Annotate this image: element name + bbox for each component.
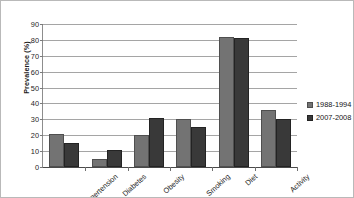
- x-axis-category-label: Smoking: [205, 172, 232, 198]
- x-axis-category-label: Diet: [243, 172, 259, 187]
- legend-label: 1988-1994: [316, 100, 351, 109]
- bar-group: [49, 24, 79, 167]
- y-axis-tick-label: 90: [31, 20, 39, 29]
- x-axis-tick-mark: [85, 167, 86, 171]
- y-axis-tick-label: 30: [31, 115, 39, 124]
- y-axis-tick-label: 0: [35, 163, 39, 172]
- x-axis-tick-mark: [255, 167, 256, 171]
- bar: [134, 135, 149, 167]
- y-axis-tick-label: 80: [31, 35, 39, 44]
- legend-swatch-icon: [307, 115, 313, 121]
- bar-group: [92, 24, 122, 167]
- x-axis-category-label: Obesity: [161, 172, 186, 195]
- bar: [261, 110, 276, 167]
- bar: [149, 118, 164, 167]
- y-axis-tick-label: 50: [31, 83, 39, 92]
- bar-series-container: [43, 24, 297, 167]
- legend-item[interactable]: 2007-2008: [307, 111, 351, 124]
- y-axis-title: Prevalence (%): [22, 13, 31, 123]
- bar: [276, 119, 291, 167]
- bar-chart-figure: Prevalence (%) 0102030405060708090 Hyper…: [0, 0, 354, 198]
- bar-group: [134, 24, 164, 167]
- bar: [219, 37, 234, 167]
- x-axis-tick-mark: [297, 167, 298, 171]
- chart-legend: 1988-19942007-2008: [307, 98, 351, 124]
- y-axis-tick-label: 60: [31, 67, 39, 76]
- bar-group: [261, 24, 291, 167]
- legend-swatch-icon: [307, 102, 313, 108]
- legend-label: 2007-2008: [316, 113, 351, 122]
- x-axis-tick-mark: [170, 167, 171, 171]
- x-axis-tick-mark: [128, 167, 129, 171]
- y-axis-tick-label: 10: [31, 147, 39, 156]
- bar: [176, 119, 191, 167]
- plot-area: 0102030405060708090 HypertensionDiabetes…: [42, 24, 297, 168]
- bar: [64, 143, 79, 167]
- bar: [191, 127, 206, 167]
- x-axis-category-label: Activity: [288, 172, 311, 194]
- x-axis-category-label: Diabetes: [120, 172, 148, 198]
- bar-group: [219, 24, 249, 167]
- y-axis-tick-label: 70: [31, 51, 39, 60]
- x-axis-category-label: Hypertension: [81, 172, 119, 198]
- bar: [92, 159, 107, 167]
- y-axis-tick-mark: [40, 167, 43, 168]
- legend-item[interactable]: 1988-1994: [307, 98, 351, 111]
- bar: [234, 38, 249, 167]
- bar-group: [176, 24, 206, 167]
- bar: [49, 134, 64, 167]
- y-axis-tick-label: 20: [31, 131, 39, 140]
- y-axis-tick-label: 40: [31, 99, 39, 108]
- x-axis-tick-mark: [212, 167, 213, 171]
- bar: [107, 150, 122, 167]
